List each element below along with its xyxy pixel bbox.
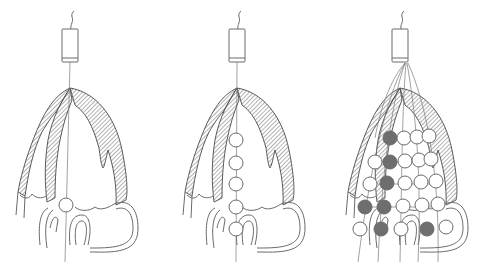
- electrode: [59, 198, 73, 212]
- panel-b: [167, 0, 337, 270]
- panel-a: [0, 0, 170, 270]
- panel-c: [330, 0, 499, 270]
- figure: [0, 0, 499, 270]
